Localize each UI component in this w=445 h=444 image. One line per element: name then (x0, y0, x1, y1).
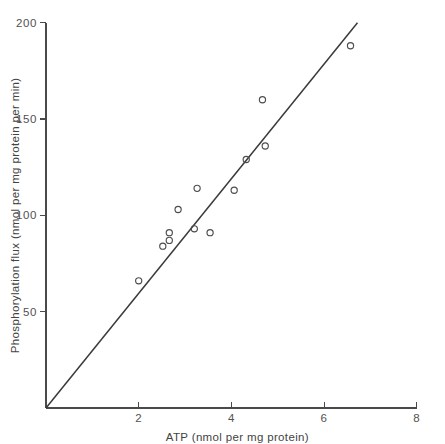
y-tick-label: 50 (23, 306, 37, 318)
regression-line-group (46, 23, 357, 408)
data-point-marker (136, 278, 142, 284)
data-point-marker (166, 237, 172, 243)
plot-canvas: 50100150200 2468 ATP (nmol per mg protei… (0, 0, 445, 444)
data-point-marker (259, 97, 265, 103)
data-point-marker (231, 187, 237, 193)
y-axis-title: Phosphorylation flux (nmol per mg protei… (9, 77, 21, 353)
x-tick-label: 2 (135, 412, 142, 424)
data-point-marker (347, 43, 353, 49)
x-axis-title: ATP (nmol per mg protein) (166, 431, 309, 443)
x-tick-label: 4 (228, 412, 235, 424)
data-point-marker (175, 206, 181, 212)
x-tick-label: 6 (321, 412, 328, 424)
axes-group (46, 23, 417, 408)
data-point-marker (262, 143, 268, 149)
data-point-marker (166, 230, 172, 236)
x-tick-label: 8 (413, 412, 420, 424)
data-point-marker (207, 230, 213, 236)
x-axis-tick-labels: 2468 (135, 412, 420, 424)
x-axis-ticks (139, 402, 417, 408)
regression-line (46, 23, 357, 408)
y-tick-label: 200 (16, 17, 37, 29)
data-point-marker (194, 185, 200, 191)
scatter-plot-figure: 50100150200 2468 ATP (nmol per mg protei… (0, 0, 445, 444)
y-axis-ticks (40, 23, 46, 312)
data-point-marker (160, 243, 166, 249)
data-point-marker (191, 226, 197, 232)
